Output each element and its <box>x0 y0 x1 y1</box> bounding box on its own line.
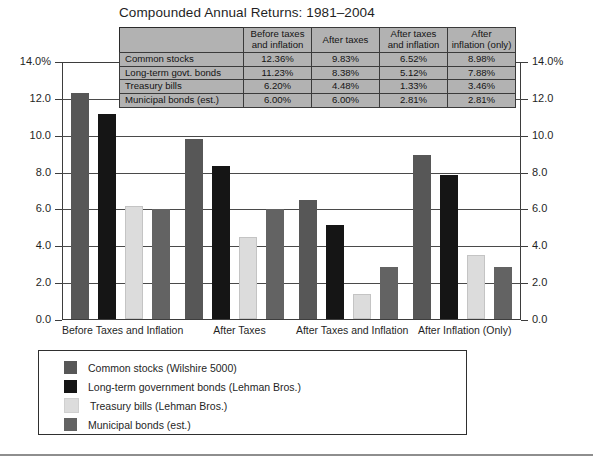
table-row-label: Municipal bonds (est.) <box>120 94 244 108</box>
table-header-row: Before taxes and inflation After taxes A… <box>120 28 516 53</box>
bar-slot <box>299 200 317 319</box>
table-cell-value: 8.98% <box>448 53 516 67</box>
table-row-label: Treasury bills <box>120 80 244 94</box>
x-axis-label: After Inflation (Only) <box>408 324 521 336</box>
table-cell-value: 5.12% <box>380 66 448 80</box>
bar <box>326 225 344 318</box>
bar-slot <box>467 255 485 318</box>
axis-tick <box>521 209 528 210</box>
table-cell-value: 2.81% <box>448 94 516 108</box>
axis-tick <box>521 246 528 247</box>
table-cell-value: 6.20% <box>244 80 312 94</box>
axis-tick <box>521 320 528 321</box>
axis-tick <box>521 62 528 63</box>
bar-slot <box>212 166 230 319</box>
chart-page: Compounded Annual Returns: 1981–2004 0.0… <box>0 0 593 467</box>
table-row: Common stocks12.36%9.83%6.52%8.98% <box>120 53 516 67</box>
table-cell-value: 12.36% <box>244 53 312 67</box>
axis-tick <box>521 136 528 137</box>
y-axis-label-left: 2.0 <box>36 277 51 288</box>
y-axis-label-right: 14.0% <box>532 56 563 67</box>
axis-tick <box>521 173 528 174</box>
x-axis-label: After Taxes and Inflation <box>296 324 409 336</box>
axis-tick <box>55 62 62 63</box>
table-col-header-line1: After taxes <box>391 28 437 39</box>
table-row-label: Long-term govt. bonds <box>120 66 244 80</box>
bar-slot <box>71 93 89 318</box>
bar <box>440 175 458 319</box>
y-axis-label-right: 6.0 <box>532 203 547 214</box>
legend-label: Long-term government bonds (Lehman Bros.… <box>88 381 301 393</box>
legend-label: Treasury bills (Lehman Bros.) <box>90 400 227 412</box>
y-axis-label-left: 14.0% <box>20 56 51 67</box>
bar-slot <box>380 267 398 318</box>
legend-item: Municipal bonds (est.) <box>64 415 466 434</box>
y-axis-label-left: 12.0 <box>30 93 51 104</box>
axis-tick <box>55 209 62 210</box>
bar-slot <box>494 267 512 318</box>
y-axis-label-right: 0.0 <box>532 314 547 325</box>
table-cell-value: 9.83% <box>312 53 380 67</box>
table-cell-value: 1.33% <box>380 80 448 94</box>
table-col-header-line2: inflation (only) <box>452 39 512 50</box>
bar <box>494 267 512 318</box>
bar <box>467 255 485 318</box>
bar <box>152 209 170 318</box>
y-axis-label-right: 4.0 <box>532 240 547 251</box>
table-cell-value: 6.00% <box>312 94 380 108</box>
axis-tick <box>55 99 62 100</box>
bar-slot <box>440 175 458 319</box>
y-axis-label-left: 10.0 <box>30 130 51 141</box>
y-axis-label-left: 4.0 <box>36 240 51 251</box>
axis-tick <box>55 320 62 321</box>
legend-swatch <box>64 380 77 393</box>
table-col-header-line1: Before taxes <box>251 28 305 39</box>
legend-item: Treasury bills (Lehman Bros.) <box>64 396 466 415</box>
table-cell-value: 6.52% <box>380 53 448 67</box>
legend-swatch <box>64 418 77 431</box>
bar-slot <box>353 294 371 318</box>
y-axis-label-left: 0.0 <box>36 314 51 325</box>
table-cell-value: 8.38% <box>312 66 380 80</box>
bar-slot <box>185 139 203 318</box>
bar <box>299 200 317 319</box>
axis-tick <box>55 246 62 247</box>
legend-swatch <box>64 398 79 413</box>
legend-swatch <box>64 361 77 374</box>
y-axis-label-right: 8.0 <box>532 167 547 178</box>
chart-title: Compounded Annual Returns: 1981–2004 <box>119 5 375 20</box>
table-col-header: Before taxes and inflation <box>244 28 312 53</box>
table-col-header-line1: After <box>471 28 491 39</box>
bar-slot <box>152 209 170 318</box>
table-cell-value: 7.88% <box>448 66 516 80</box>
legend-label: Municipal bonds (est.) <box>88 419 191 431</box>
table-col-header: After inflation (only) <box>448 28 516 53</box>
x-axis-labels: Before Taxes and InflationAfter TaxesAft… <box>62 324 521 336</box>
y-axis-label-right: 2.0 <box>532 277 547 288</box>
table-cell-value: 11.23% <box>244 66 312 80</box>
bar <box>125 206 143 319</box>
axis-tick <box>521 283 528 284</box>
table-row: Municipal bonds (est.)6.00%6.00%2.81%2.8… <box>120 94 516 108</box>
bar <box>353 294 371 318</box>
axis-tick <box>521 99 528 100</box>
bar <box>239 237 257 319</box>
bar <box>71 93 89 318</box>
bar <box>413 155 431 319</box>
y-axis-label-right: 12.0 <box>532 93 553 104</box>
bar <box>380 267 398 318</box>
legend: Common stocks (Wilshire 5000)Long-term g… <box>38 350 467 435</box>
table-corner-cell <box>120 28 244 53</box>
bar-slot <box>98 114 116 319</box>
data-table: Before taxes and inflation After taxes A… <box>119 27 516 108</box>
legend-item: Common stocks (Wilshire 5000) <box>64 358 466 377</box>
x-axis-label: After Taxes <box>183 324 296 336</box>
bottom-divider <box>0 454 593 456</box>
table-col-header-line2: and inflation <box>252 39 304 50</box>
axis-tick <box>55 136 62 137</box>
bar-slot <box>266 209 284 318</box>
bar-slot <box>239 237 257 319</box>
table-col-header: After taxes and inflation <box>380 28 448 53</box>
table-col-header: After taxes <box>312 28 380 53</box>
table-col-header-line2: and inflation <box>388 39 440 50</box>
